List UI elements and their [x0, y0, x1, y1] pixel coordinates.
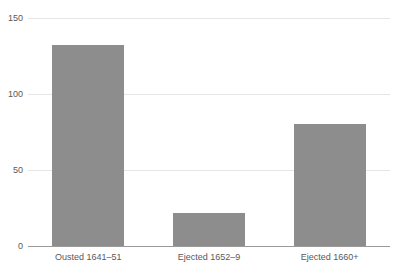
bars-layer [28, 10, 390, 255]
x-axis-category-label: Ejected 1660+ [301, 252, 359, 263]
x-axis-labels: Ousted 1641–51Ejected 1652–9Ejected 1660… [28, 252, 390, 272]
bar [294, 124, 366, 246]
bar [173, 213, 245, 246]
y-tick-label-100: 100 [8, 90, 23, 99]
y-tick-label-50: 50 [13, 166, 23, 175]
bar [52, 45, 124, 246]
x-axis-category-label: Ousted 1641–51 [55, 252, 122, 263]
y-tick-label-0: 0 [18, 242, 23, 251]
x-axis-category-label: Ejected 1652–9 [178, 252, 241, 263]
y-tick-label-150: 150 [8, 14, 23, 23]
plot-area: 150 100 50 0 [28, 10, 390, 255]
bar-chart: 150 100 50 0 Ousted 1641–51Ejected 1652–… [0, 0, 398, 277]
